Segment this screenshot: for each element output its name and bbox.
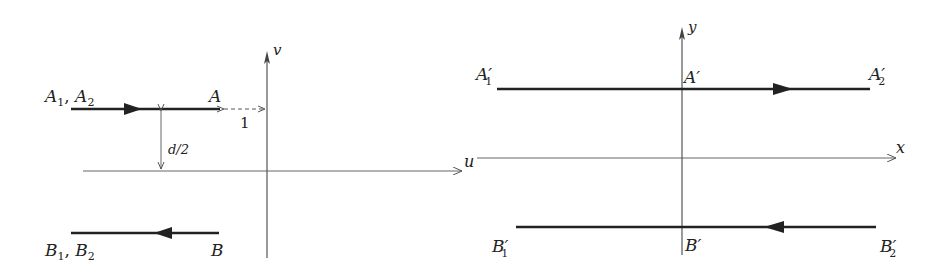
y-axis-label: y xyxy=(687,18,697,36)
u-axis-label: u xyxy=(464,152,474,171)
line-A-direction-arrow-icon xyxy=(124,103,142,115)
label-A: A xyxy=(207,86,221,106)
left-panel: u v A1, A2 A 1 d/2 B1, B2 B xyxy=(43,41,474,263)
right-panel: x y A′1 A′ A′2 B′1 B′ B′2 xyxy=(474,18,905,260)
v-axis-label: v xyxy=(273,41,282,59)
label-B-prime: B′ xyxy=(684,235,701,255)
line-B-prime-direction-arrow-icon xyxy=(764,221,784,233)
x-axis-label: x xyxy=(896,138,905,157)
label-A1-A2: A1, A2 xyxy=(43,86,94,109)
conformal-mapping-diagram: u v A1, A2 A 1 d/2 B1, B2 B x y xyxy=(0,0,949,280)
label-A1-prime: A′1 xyxy=(474,64,492,88)
line-A-prime-direction-arrow-icon xyxy=(773,83,793,95)
label-B2-prime: B′2 xyxy=(879,236,896,260)
distance-label: d/2 xyxy=(168,142,189,157)
gap-label: 1 xyxy=(240,114,250,132)
line-B-direction-arrow-icon xyxy=(154,227,172,239)
label-A2-prime: A′2 xyxy=(867,64,885,88)
label-A-prime: A′ xyxy=(682,67,700,87)
label-B: B xyxy=(210,240,224,260)
label-B1-prime: B′1 xyxy=(491,236,508,260)
label-B1-B2: B1, B2 xyxy=(44,240,95,263)
